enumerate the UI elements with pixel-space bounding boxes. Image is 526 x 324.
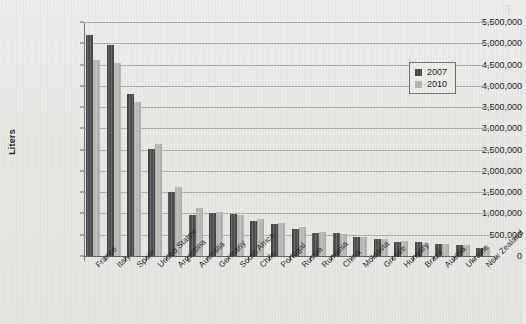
bar-group xyxy=(331,22,352,256)
x-axis-tick-mark xyxy=(84,257,85,261)
bar-2010 xyxy=(278,223,285,256)
legend-label-2010: 2010 xyxy=(427,79,447,89)
bar-2010 xyxy=(155,144,162,256)
bar-2007 xyxy=(148,149,155,256)
bar-group xyxy=(310,22,331,256)
bar-group xyxy=(351,22,372,256)
page-corner-mark-icon xyxy=(501,5,510,14)
legend-item-2010: 2010 xyxy=(415,78,447,90)
bar-group xyxy=(433,22,454,256)
bar-2010 xyxy=(93,60,100,256)
legend-label-2007: 2007 xyxy=(427,67,447,77)
bar-2010 xyxy=(114,63,121,256)
bar-group xyxy=(413,22,434,256)
bar-group xyxy=(125,22,146,256)
bar-group xyxy=(474,22,495,256)
bar-group xyxy=(166,22,187,256)
bar-2007 xyxy=(86,35,93,256)
bar-group xyxy=(248,22,269,256)
bar-group xyxy=(228,22,249,256)
bar-group xyxy=(269,22,290,256)
bar-2007 xyxy=(107,45,114,256)
bar-group xyxy=(105,22,126,256)
bar-group xyxy=(84,22,105,256)
bar-2010 xyxy=(134,102,141,256)
y-axis-title: Liters xyxy=(7,112,17,172)
bar-group xyxy=(187,22,208,256)
bar-group xyxy=(392,22,413,256)
legend-item-2007: 2007 xyxy=(415,66,447,78)
bar-group xyxy=(290,22,311,256)
chart-legend: 2007 2010 xyxy=(409,62,456,94)
bar-2007 xyxy=(127,94,134,256)
bar-group xyxy=(454,22,475,256)
legend-swatch-icon-2010 xyxy=(415,81,422,88)
bar-group xyxy=(372,22,393,256)
bar-group xyxy=(207,22,228,256)
bar-group xyxy=(146,22,167,256)
legend-swatch-icon-2007 xyxy=(415,69,422,76)
plot-area xyxy=(84,22,495,256)
